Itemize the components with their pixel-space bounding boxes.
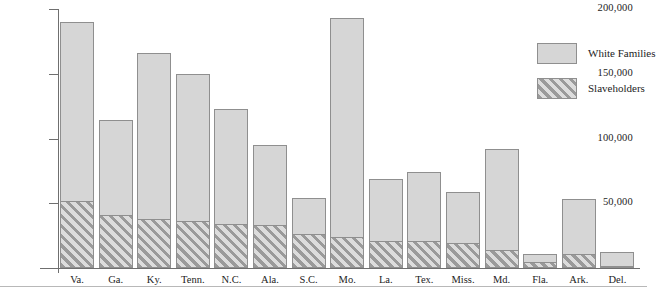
bar-segment-white-families bbox=[253, 145, 287, 225]
bar-segment-white-families bbox=[176, 74, 210, 222]
bar-ala bbox=[253, 145, 287, 268]
bar-miss bbox=[446, 192, 480, 268]
bar-del bbox=[600, 252, 634, 268]
legend-label-white-families: White Families bbox=[588, 47, 656, 59]
bar-segment-white-families bbox=[600, 252, 634, 265]
bar-segment-white-families bbox=[99, 120, 133, 215]
bar-va bbox=[60, 22, 94, 268]
bar-segment-slaveholders bbox=[485, 250, 519, 268]
y-tick-200000 bbox=[49, 9, 58, 10]
bar-segment-white-families bbox=[214, 109, 248, 224]
bar-segment-slaveholders bbox=[60, 201, 94, 268]
bar-tenn bbox=[176, 74, 210, 268]
bar-segment-slaveholders bbox=[176, 221, 210, 268]
legend-swatch-slaveholders-icon bbox=[537, 78, 577, 99]
bar-segment-white-families bbox=[330, 18, 364, 237]
x-axis-baseline bbox=[40, 268, 640, 269]
bar-md bbox=[485, 149, 519, 268]
x-label-del: Del. bbox=[592, 274, 642, 285]
bar-sc bbox=[292, 198, 326, 268]
y-tick-label-50000: 50,000 bbox=[603, 196, 633, 207]
bar-segment-slaveholders bbox=[253, 225, 287, 268]
bar-ga bbox=[99, 120, 133, 268]
y-tick-150000 bbox=[49, 74, 58, 75]
bar-segment-slaveholders bbox=[446, 243, 480, 268]
bar-segment-slaveholders bbox=[600, 266, 634, 268]
bar-segment-slaveholders bbox=[369, 241, 403, 268]
bar-fla bbox=[523, 254, 557, 268]
bar-segment-slaveholders bbox=[292, 234, 326, 268]
bar-segment-slaveholders bbox=[523, 262, 557, 268]
bar-segment-slaveholders bbox=[214, 224, 248, 268]
bar-segment-slaveholders bbox=[137, 219, 171, 268]
bar-segment-slaveholders bbox=[407, 241, 441, 268]
y-axis-line bbox=[58, 9, 59, 273]
bar-segment-white-families bbox=[446, 192, 480, 244]
y-tick-label-200000: 200,000 bbox=[597, 2, 633, 13]
y-tick-label-100000: 100,000 bbox=[597, 132, 633, 143]
footer-rule bbox=[0, 286, 647, 287]
bar-segment-white-families bbox=[60, 22, 94, 201]
bar-segment-slaveholders bbox=[99, 215, 133, 268]
bar-mo bbox=[330, 18, 364, 268]
y-tick-50000 bbox=[49, 203, 58, 204]
legend-label-slaveholders: Slaveholders bbox=[588, 82, 645, 94]
bar-segment-white-families bbox=[407, 172, 441, 241]
bar-segment-white-families bbox=[292, 198, 326, 234]
legend-swatch-white-families-icon bbox=[537, 43, 577, 64]
bar-segment-white-families bbox=[485, 149, 519, 250]
bar-segment-white-families bbox=[137, 53, 171, 219]
bar-ky bbox=[137, 53, 171, 268]
y-tick-label-150000: 150,000 bbox=[597, 67, 633, 78]
bar-segment-white-families bbox=[523, 254, 557, 261]
bar-tex bbox=[407, 172, 441, 268]
bar-segment-white-families bbox=[369, 179, 403, 241]
bar-nc bbox=[214, 109, 248, 268]
bar-ark bbox=[562, 199, 596, 268]
bar-segment-white-families bbox=[562, 199, 596, 253]
y-tick-100000 bbox=[49, 139, 58, 140]
bar-la bbox=[369, 179, 403, 268]
bar-segment-slaveholders bbox=[330, 237, 364, 268]
bar-segment-slaveholders bbox=[562, 254, 596, 268]
